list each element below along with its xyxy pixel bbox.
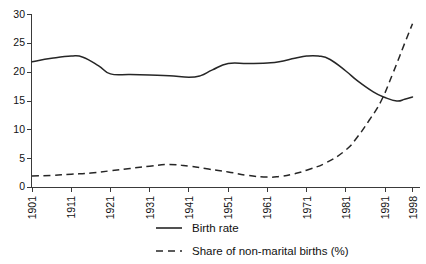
y-tick-label: 20 bbox=[13, 65, 25, 77]
x-tick-label: 1971 bbox=[301, 196, 313, 220]
x-tick-label: 1931 bbox=[144, 196, 156, 220]
line-chart: 30 25 20 15 10 5 0 1901 1911 1921 bbox=[0, 0, 426, 264]
x-tick-label: 1911 bbox=[65, 196, 77, 219]
x-tick-label: 1981 bbox=[340, 196, 352, 220]
x-tick-label: 1998 bbox=[407, 196, 419, 220]
y-tick-group bbox=[27, 15, 32, 188]
series-non-marital-share-line bbox=[32, 24, 413, 178]
x-tick-label: 1901 bbox=[26, 196, 38, 220]
y-tick-label: 25 bbox=[13, 36, 25, 48]
legend: Birth rate Share of non-marital births (… bbox=[156, 222, 349, 257]
y-tick-labels: 30 25 20 15 10 5 0 bbox=[13, 8, 25, 193]
y-tick-label: 5 bbox=[19, 152, 25, 164]
x-tick-label: 1951 bbox=[222, 196, 234, 220]
y-tick-label: 0 bbox=[19, 180, 25, 192]
x-tick-label: 1941 bbox=[183, 196, 195, 220]
x-tick-labels: 1901 1911 1921 1931 1941 1951 1961 1971 … bbox=[26, 196, 419, 220]
chart-container: 30 25 20 15 10 5 0 1901 1911 1921 bbox=[0, 0, 426, 264]
y-tick-label: 15 bbox=[13, 94, 25, 106]
x-tick-group bbox=[32, 188, 413, 193]
legend-label-non-marital-share: Share of non-marital births (%) bbox=[192, 245, 349, 257]
series-birth-rate-line bbox=[32, 56, 413, 102]
x-tick-label: 1921 bbox=[104, 196, 116, 220]
x-tick-label: 1991 bbox=[379, 196, 391, 220]
legend-label-birth-rate: Birth rate bbox=[192, 222, 239, 234]
x-tick-label: 1961 bbox=[261, 196, 273, 220]
y-tick-label: 10 bbox=[13, 123, 25, 135]
y-tick-label: 30 bbox=[13, 8, 25, 20]
